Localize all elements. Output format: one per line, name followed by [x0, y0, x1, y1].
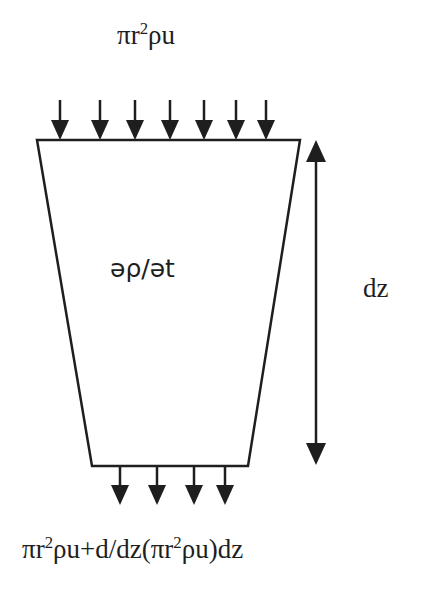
- arrow-down-icon: [227, 100, 245, 140]
- arrow-down-icon: [216, 466, 234, 505]
- arrow-up-icon: [306, 140, 326, 162]
- inflow-arrows: [51, 100, 275, 140]
- diagram-svg: [0, 0, 423, 597]
- accumulation-label: əρ/ət: [110, 256, 175, 281]
- height-label: dz: [363, 275, 388, 302]
- arrow-down-icon: [148, 466, 166, 505]
- arrow-down-icon: [51, 100, 69, 140]
- dimension-arrow-dz: [306, 140, 326, 465]
- arrow-down-icon: [126, 100, 144, 140]
- arrow-down-icon: [306, 443, 326, 465]
- inflow-label: πr2ρu: [117, 22, 175, 49]
- arrow-down-icon: [257, 100, 275, 140]
- control-volume-trapezoid: [37, 140, 300, 466]
- arrow-down-icon: [111, 466, 129, 505]
- outflow-label: πr2ρu+d/dz(πr2ρu)dz: [22, 536, 243, 563]
- arrow-down-icon: [185, 466, 203, 505]
- diagram-canvas: πr2ρu əρ/ət dz πr2ρu+d/dz(πr2ρu)dz: [0, 0, 423, 597]
- arrow-down-icon: [161, 100, 179, 140]
- outflow-arrows: [111, 466, 234, 505]
- arrow-down-icon: [91, 100, 109, 140]
- arrow-down-icon: [195, 100, 213, 140]
